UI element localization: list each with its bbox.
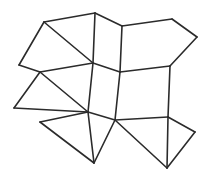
diagram-canvas xyxy=(0,0,209,176)
edge-right-lower-to-bottom-right xyxy=(167,117,168,168)
quadrilateral-net-figure xyxy=(0,0,209,176)
face-mid-right xyxy=(115,66,170,120)
